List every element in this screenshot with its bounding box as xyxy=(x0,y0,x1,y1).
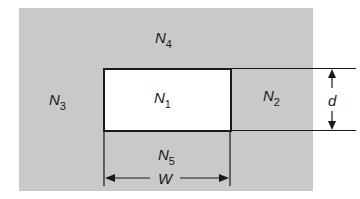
region-letter: N xyxy=(155,29,166,46)
region-subscript: 4 xyxy=(166,38,172,50)
region-label-n1: N1 xyxy=(154,90,171,110)
region-subscript: 2 xyxy=(274,96,280,108)
region-letter: N xyxy=(158,146,169,163)
region-label-n5: N5 xyxy=(158,147,175,167)
region-subscript: 1 xyxy=(165,98,171,110)
region-letter: N xyxy=(154,89,165,106)
region-label-n3: N3 xyxy=(49,92,66,112)
region-label-n4: N4 xyxy=(155,30,172,50)
region-letter: N xyxy=(263,87,274,104)
region-subscript: 3 xyxy=(60,100,66,112)
region-subscript: 5 xyxy=(169,155,175,167)
region-letter: N xyxy=(49,91,60,108)
height-dimension-label: d xyxy=(328,93,336,108)
width-dimension-label: W xyxy=(158,171,172,186)
region-label-n2: N2 xyxy=(263,88,280,108)
